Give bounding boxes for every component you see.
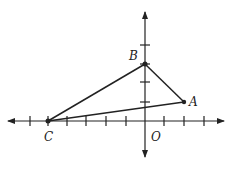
y-axis xyxy=(140,12,150,157)
point-b xyxy=(143,62,148,67)
point-c xyxy=(46,119,51,124)
label-a: A xyxy=(188,95,198,109)
label-c: C xyxy=(44,130,53,144)
side-cb xyxy=(48,64,145,121)
triangle-abc xyxy=(48,64,184,121)
point-a xyxy=(182,100,186,104)
x-axis xyxy=(8,116,224,126)
coordinate-plane: A B C O xyxy=(0,0,238,170)
label-b: B xyxy=(128,49,138,63)
label-origin: O xyxy=(151,130,161,144)
side-ba xyxy=(145,64,184,102)
